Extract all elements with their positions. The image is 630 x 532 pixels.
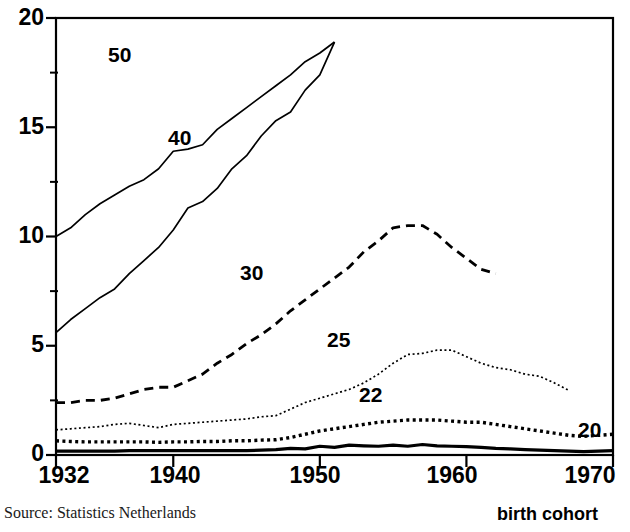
- chart-figure: 20 15 10 5 0 1932 1940 1950 1960 1970 50…: [0, 0, 630, 532]
- series-label-20: 20: [578, 419, 601, 440]
- series-label-50: 50: [108, 44, 131, 65]
- y-tick-label-20: 20: [0, 6, 44, 29]
- y-tick-label-0: 0: [0, 442, 44, 465]
- x-tick-label-1940: 1940: [125, 464, 225, 487]
- line-chart-canvas: [0, 0, 630, 532]
- series-label-22: 22: [359, 384, 382, 405]
- series-line-20: [56, 445, 613, 452]
- y-tick-label-15: 15: [0, 115, 44, 138]
- series-label-30: 30: [240, 262, 263, 283]
- series-line-22: [56, 420, 613, 442]
- plot-frame: [56, 18, 613, 455]
- series-line-50: [56, 42, 335, 236]
- x-axis-caption: birth cohort: [497, 505, 598, 523]
- x-tick-label-1932: 1932: [14, 464, 114, 487]
- series-line-25: [56, 350, 569, 430]
- x-tick-label-1970: 1970: [540, 464, 630, 487]
- series-line-30: [56, 226, 496, 403]
- series-label-40: 40: [168, 127, 191, 148]
- source-note: Source: Statistics Netherlands: [4, 505, 196, 521]
- series-line-40: [56, 42, 335, 333]
- x-tick-label-1960: 1960: [402, 464, 502, 487]
- y-tick-label-10: 10: [0, 224, 44, 247]
- x-tick-label-1950: 1950: [265, 464, 365, 487]
- series-label-25: 25: [327, 329, 350, 350]
- y-tick-label-5: 5: [0, 333, 44, 356]
